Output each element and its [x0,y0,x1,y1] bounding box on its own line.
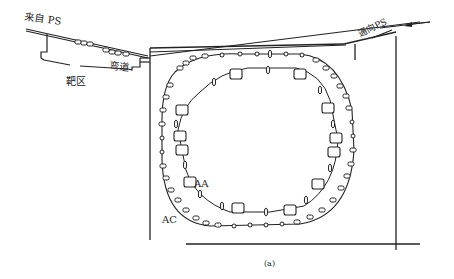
extraction-line [150,22,430,56]
accelerator-diagram: 来自 PS 通向PS 弯道 靶区 AA AC (a) [0,0,454,279]
label-bend: 弯道 [108,57,129,74]
figure-caption: (a) [264,259,275,268]
label-ac-ring: AC [162,214,177,225]
label-aa-ring: AA [194,178,208,189]
diagram-svg [0,0,454,279]
aa-ring [174,66,342,216]
hall-wall [150,30,420,250]
injection-line [26,29,150,70]
label-target-area: 靶区 [66,73,86,88]
ac-ring [159,50,356,228]
